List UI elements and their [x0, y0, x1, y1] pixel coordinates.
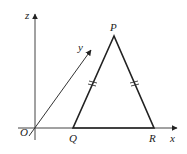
origin-label: O: [20, 126, 28, 138]
triangle-pqr: [73, 36, 154, 128]
x-axis-label: x: [169, 132, 175, 144]
y-axis-label: y: [77, 41, 83, 53]
vertex-q-label: Q: [69, 132, 77, 144]
y-axis: [29, 50, 91, 136]
vertex-r-label: R: [148, 132, 156, 144]
vertex-p-label: P: [109, 21, 117, 33]
coordinate-diagram: z y x O P Q R: [0, 0, 187, 154]
z-axis-label: z: [24, 9, 30, 21]
